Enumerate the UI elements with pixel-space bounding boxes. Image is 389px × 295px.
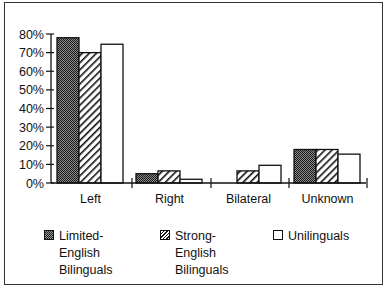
bar-unknown-1 <box>316 149 338 183</box>
bar-left-0 <box>57 38 79 183</box>
bar-left-2 <box>101 44 123 183</box>
y-tick-label: 60% <box>19 65 44 79</box>
bar-unknown-0 <box>294 149 316 183</box>
bar-left-1 <box>79 53 101 183</box>
x-category-label: Right <box>155 192 185 206</box>
y-tick-label: 80% <box>19 28 44 42</box>
x-category-label: Bilateral <box>226 192 271 206</box>
bar-bilateral-1 <box>237 171 259 183</box>
y-axis: 0%10%20%30%40%50%60%70%80% <box>19 28 54 191</box>
x-category-label: Left <box>80 192 101 206</box>
bars-group <box>57 38 360 183</box>
x-category-label: Unknown <box>301 192 353 206</box>
y-tick-label: 10% <box>19 158 44 172</box>
legend-label: Strong-English Bilinguals <box>175 228 229 279</box>
bar-right-0 <box>136 174 158 183</box>
y-tick-label: 0% <box>26 177 44 191</box>
legend-label: Limited-English Bilinguals <box>59 228 113 279</box>
y-tick-label: 70% <box>19 46 44 60</box>
y-tick-label: 30% <box>19 121 44 135</box>
bar-bilateral-2 <box>259 165 281 183</box>
legend: Limited-English Bilinguals Strong-Englis… <box>44 228 374 268</box>
y-tick-label: 40% <box>19 102 44 116</box>
bar-right-1 <box>158 171 180 183</box>
bar-unknown-2 <box>338 154 360 183</box>
legend-swatch-hatch-icon <box>160 230 170 240</box>
legend-swatch-empty-icon <box>273 230 283 240</box>
legend-label: Unilinguals <box>288 228 349 245</box>
legend-swatch-dither-icon <box>44 230 54 240</box>
y-tick-label: 20% <box>19 139 44 153</box>
y-tick-label: 50% <box>19 83 44 97</box>
